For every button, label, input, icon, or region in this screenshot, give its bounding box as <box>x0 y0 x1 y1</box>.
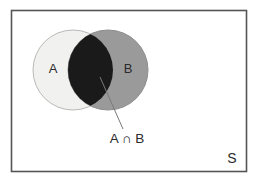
intersection-label: A ∩ B <box>110 131 144 146</box>
universal-set-label: S <box>227 150 236 166</box>
set-a-label: A <box>49 61 58 76</box>
venn-diagram-figure: A B A ∩ B S <box>0 0 258 185</box>
venn-diagram-canvas: A B A ∩ B S <box>0 0 258 185</box>
set-b-label: B <box>124 61 133 76</box>
